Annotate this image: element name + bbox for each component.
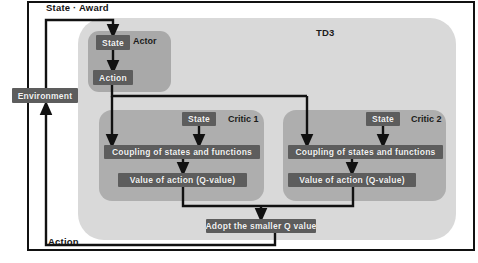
critic-1-coupling-node[interactable]: Coupling of states and functions xyxy=(104,145,260,159)
critic-1-qvalue-node[interactable]: Value of action (Q-value) xyxy=(118,173,247,187)
critic-2-title: Critic 2 xyxy=(411,114,442,124)
td3-title: TD3 xyxy=(316,27,335,38)
diagram-canvas: TD3 Actor Critic 1 Critic 2 State · Awar… xyxy=(0,0,478,263)
critic-1-title: Critic 1 xyxy=(228,114,259,124)
critic-1-state-node[interactable]: State xyxy=(182,112,216,126)
critic-2-qvalue-node[interactable]: Value of action (Q-value) xyxy=(288,173,416,187)
actor-title: Actor xyxy=(133,36,157,46)
adopt-smaller-q-node[interactable]: Adopt the smaller Q value xyxy=(206,219,316,233)
environment-node[interactable]: Environment xyxy=(12,88,78,103)
critic-2-state-node[interactable]: State xyxy=(366,112,400,126)
outer-frame xyxy=(27,1,475,251)
edge-label-state-award: State · Award xyxy=(46,2,109,13)
edge-label-action: Action xyxy=(48,236,79,247)
actor-action-node[interactable]: Action xyxy=(93,70,133,85)
critic-2-coupling-node[interactable]: Coupling of states and functions xyxy=(288,145,443,159)
actor-state-node[interactable]: State xyxy=(96,35,130,50)
